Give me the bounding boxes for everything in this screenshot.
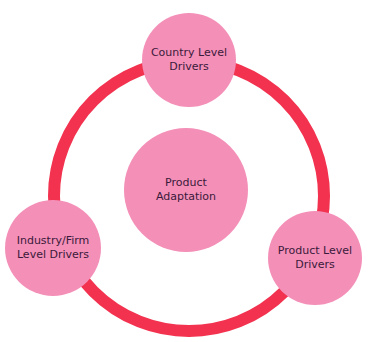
center-node-label: Product Adaptation xyxy=(156,176,216,204)
center-node-product-adaptation: Product Adaptation xyxy=(124,128,248,252)
node-product-level-drivers: Product Level Drivers xyxy=(268,211,362,305)
node-label: Industry/Firm Level Drivers xyxy=(17,234,90,262)
node-industry-firm-level-drivers: Industry/Firm Level Drivers xyxy=(5,200,101,296)
node-label: Country Level Drivers xyxy=(151,46,227,74)
node-country-level-drivers: Country Level Drivers xyxy=(142,13,236,107)
node-label: Product Level Drivers xyxy=(278,244,352,272)
